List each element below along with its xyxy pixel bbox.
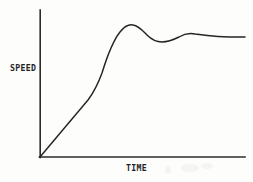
x-axis-label: TIME (126, 163, 147, 173)
chart-figure: SPEED TIME (0, 0, 253, 182)
speed-curve (40, 25, 245, 157)
chart-canvas: SPEED TIME (0, 0, 253, 182)
y-axis-label: SPEED (10, 63, 36, 73)
scan-artifact-group (165, 163, 213, 174)
